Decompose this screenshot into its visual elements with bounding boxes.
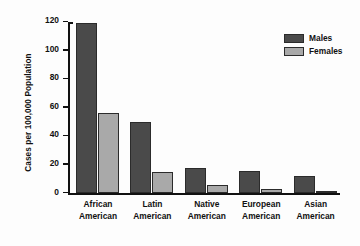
y-tick-label: 60 (50, 101, 59, 111)
bar-males-4 (294, 176, 315, 193)
y-tick: 20 (63, 163, 68, 164)
y-tick: 120 (63, 21, 68, 22)
y-tick-label: 80 (50, 72, 59, 82)
bar-group (185, 22, 229, 193)
bar-chart: Cases per 100,000 Population 02040608010… (0, 0, 360, 246)
bar-group (76, 22, 120, 193)
x-axis-line (68, 193, 340, 195)
chart-legend: MalesFemales (284, 32, 343, 58)
y-axis-top-cap (68, 22, 73, 24)
x-axis-label-line: American (276, 211, 356, 223)
legend-swatch-females (284, 47, 304, 56)
y-tick-label: 40 (50, 129, 59, 139)
bar-males-2 (185, 168, 206, 194)
y-tick: 60 (63, 106, 68, 107)
y-tick-label: 0 (54, 187, 59, 197)
y-tick: 40 (63, 135, 68, 136)
y-tick: 100 (63, 49, 68, 50)
legend-swatch-males (284, 34, 304, 43)
bar-females-0 (98, 113, 119, 193)
bar-group (130, 22, 174, 193)
bar-group (239, 22, 283, 193)
y-tick-label: 20 (50, 158, 59, 168)
bar-males-3 (239, 171, 260, 194)
bar-females-2 (207, 185, 228, 194)
y-axis-line (68, 22, 70, 195)
bar-males-1 (130, 122, 151, 193)
legend-label-males: Males (309, 33, 332, 43)
y-tick-label: 100 (45, 44, 59, 54)
legend-label-females: Females (309, 46, 343, 56)
y-tick: 0 (63, 192, 68, 193)
bar-females-3 (261, 189, 282, 193)
bar-females-4 (316, 191, 337, 194)
y-tick-label: 120 (45, 15, 59, 25)
bar-females-1 (152, 172, 173, 193)
legend-item-males: Males (284, 32, 343, 44)
x-axis-label-line: Asian (276, 199, 356, 211)
y-tick: 80 (63, 78, 68, 79)
bar-males-0 (76, 23, 97, 193)
x-axis-label-4: AsianAmerican (276, 199, 356, 222)
legend-item-females: Females (284, 45, 343, 57)
y-axis-title: Cases per 100,000 Population (24, 23, 33, 203)
